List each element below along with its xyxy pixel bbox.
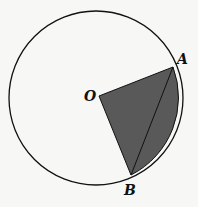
label-o: O [84, 88, 97, 104]
circle-diagram: O A B [0, 0, 198, 207]
label-a: A [175, 51, 188, 67]
label-b: B [123, 182, 136, 198]
